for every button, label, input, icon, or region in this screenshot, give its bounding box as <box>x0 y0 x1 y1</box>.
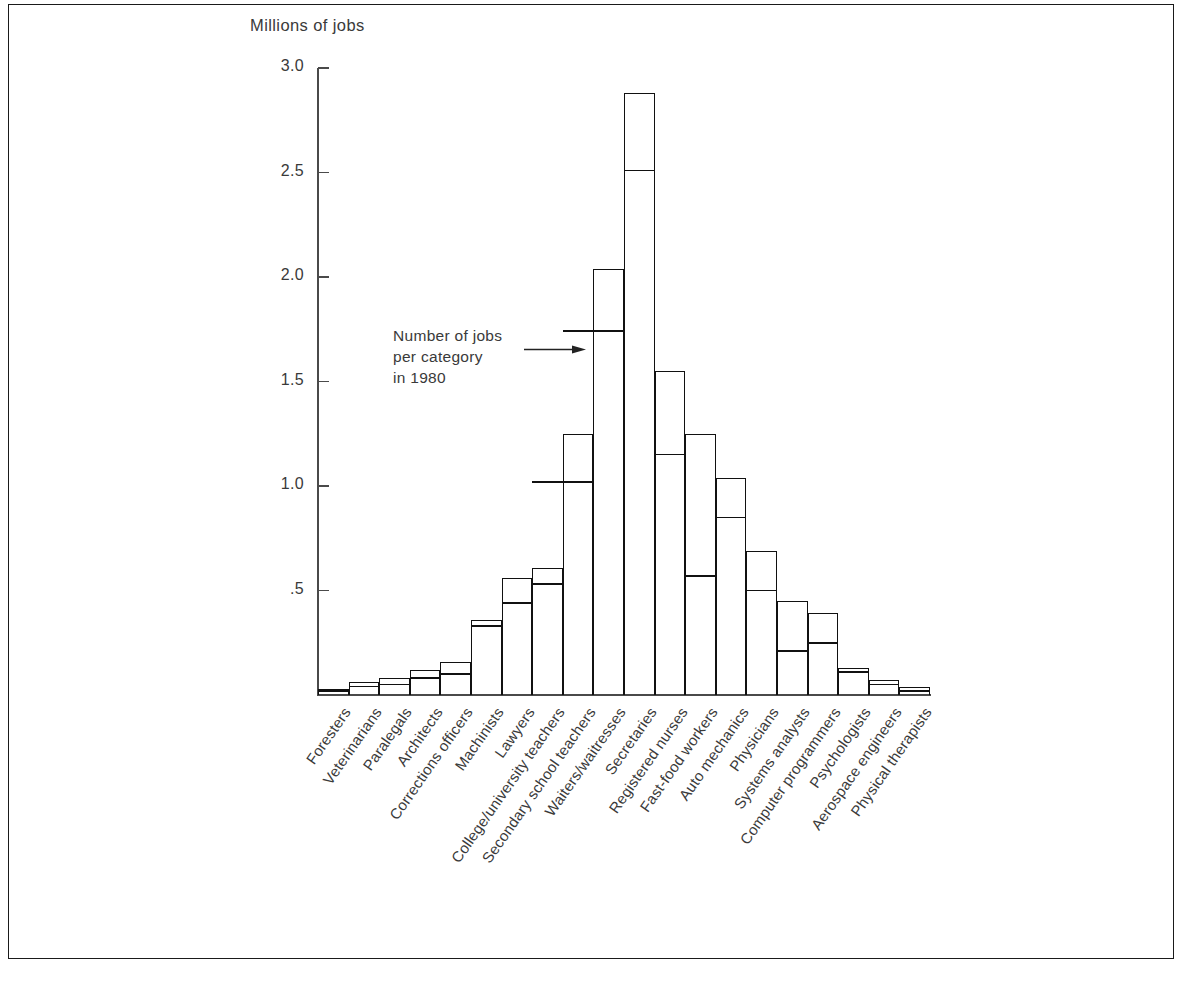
bar-inner-divider <box>502 602 533 604</box>
bar-inner-divider <box>716 517 747 519</box>
bar-inner-divider <box>746 590 777 592</box>
bar <box>869 680 900 695</box>
bar <box>349 682 380 695</box>
y-axis-tick-label: 2.0 <box>244 266 304 284</box>
y-axis-tick <box>318 172 329 173</box>
bar-inner-divider <box>318 690 349 692</box>
bar-inner-divider <box>838 671 869 673</box>
y-axis-tick <box>318 590 329 591</box>
bar <box>655 371 686 695</box>
bar <box>379 678 410 695</box>
bar <box>716 478 747 695</box>
bar <box>440 662 471 695</box>
bar <box>532 568 563 695</box>
bar <box>471 620 502 695</box>
bar-inner-divider <box>471 625 502 627</box>
bar-inner-divider <box>869 684 900 686</box>
bar-inner-divider <box>532 583 563 585</box>
bar-inner-divider <box>624 170 655 172</box>
bar-chart: Millions of jobs 3.02.52.01.51.0.5 Fores… <box>0 0 1192 985</box>
y-axis-tick-label: 1.0 <box>244 475 304 493</box>
bar <box>808 613 839 695</box>
bar-inner-divider <box>777 650 808 652</box>
bar-inner-divider <box>440 673 471 675</box>
bar-inner-divider <box>685 575 716 577</box>
bar-inner-divider <box>410 677 441 679</box>
annotation-line-3: in 1980 <box>393 367 502 388</box>
y-axis-tick-label: 2.5 <box>244 162 304 180</box>
bar <box>777 601 808 695</box>
y-axis-tick <box>318 67 329 68</box>
bar-inner-divider <box>899 690 930 692</box>
bar <box>593 269 624 695</box>
bar-inner-divider <box>593 330 624 332</box>
bar-inner-divider <box>655 454 686 456</box>
bar-inner-divider <box>808 642 839 644</box>
bar-inner-divider <box>349 686 380 688</box>
annotation-text: Number of jobs per category in 1980 <box>393 325 502 388</box>
page-root: Millions of jobs 3.02.52.01.51.0.5 Fores… <box>0 0 1192 985</box>
y-axis-tick <box>318 381 329 382</box>
y-axis-tick <box>318 485 329 486</box>
annotation-arrow-icon <box>524 345 586 354</box>
bar <box>685 434 716 695</box>
y-axis-tick-label: .5 <box>244 580 304 598</box>
annotation-line-2: per category <box>393 346 502 367</box>
y-axis-title: Millions of jobs <box>250 16 365 35</box>
bar <box>746 551 777 695</box>
bar-inner-stub <box>532 481 563 483</box>
annotation-line-1: Number of jobs <box>393 325 502 346</box>
bar-inner-divider <box>379 684 410 686</box>
bar-inner-stub <box>563 330 594 332</box>
bar <box>624 93 655 695</box>
bar-inner-divider <box>563 481 594 483</box>
y-axis-tick-label: 3.0 <box>244 57 304 75</box>
y-axis-tick-label: 1.5 <box>244 371 304 389</box>
bar <box>563 434 594 695</box>
y-axis-tick <box>318 276 329 277</box>
bar <box>410 670 441 695</box>
bar <box>502 578 533 695</box>
